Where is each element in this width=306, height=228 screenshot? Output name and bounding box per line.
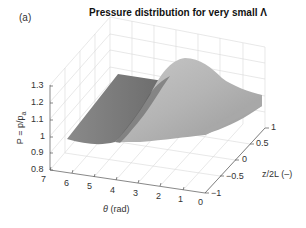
theta-tick: 7	[41, 174, 46, 184]
z-tick: 1.3	[31, 80, 44, 90]
z2l-tick: −0.5	[226, 171, 244, 181]
z-axis-label: P = p/pa	[15, 98, 27, 158]
theta-tick: 5	[87, 181, 92, 191]
z2l-tick: 0	[242, 154, 247, 164]
theta-tick: 6	[64, 178, 69, 188]
plot-3d	[0, 0, 306, 228]
theta-tick: 2	[156, 191, 161, 201]
theta-tick: 4	[110, 185, 115, 195]
theta-tick: 1	[178, 194, 183, 204]
z-tick: 0.9	[31, 147, 44, 157]
theta-tick: 0	[198, 197, 203, 207]
z-tick: 1.1	[31, 114, 44, 124]
z-tick: 1.2	[31, 97, 44, 107]
z2l-tick: −1	[211, 188, 221, 198]
z2l-axis-label: z/2L (–)	[262, 169, 292, 179]
theta-axis-label: θ (rad)	[103, 204, 129, 214]
z-tick: 1	[40, 131, 45, 141]
z2l-tick: 1	[271, 122, 276, 132]
z-tick: 0.8	[31, 164, 44, 174]
pressure-surface	[60, 55, 270, 150]
z2l-tick: 0.5	[256, 138, 269, 148]
theta-tick: 3	[133, 188, 138, 198]
